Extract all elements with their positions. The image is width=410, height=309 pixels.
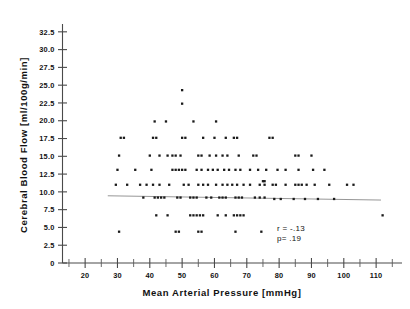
data-point — [163, 196, 165, 198]
data-point — [210, 196, 212, 198]
data-point — [166, 214, 168, 216]
chart-canvas: Cerebral Blood Flow [ml/100g/min] Mean A… — [0, 0, 410, 309]
data-point — [196, 214, 198, 216]
data-point — [275, 184, 277, 186]
data-point — [215, 120, 217, 122]
data-point — [217, 169, 219, 171]
data-point — [123, 137, 125, 139]
data-point — [184, 137, 186, 139]
data-point — [381, 214, 383, 216]
data-point — [158, 154, 160, 156]
data-point — [207, 184, 209, 186]
data-point — [273, 198, 275, 200]
x-tick-label: 20 — [81, 271, 90, 280]
data-point — [225, 137, 227, 139]
data-point — [189, 196, 191, 198]
data-point — [259, 196, 261, 198]
data-point — [297, 154, 299, 156]
y-tick-label: 17.5 — [39, 134, 54, 143]
x-tick-label: 110 — [370, 271, 383, 280]
data-points-group — [115, 89, 384, 233]
data-point — [192, 120, 194, 122]
y-axis-title-group: Cerebral Blood Flow [ml/100g/min] — [18, 57, 29, 233]
data-point — [178, 169, 180, 171]
data-point — [272, 184, 274, 186]
data-point — [301, 184, 303, 186]
data-point — [263, 180, 265, 182]
data-point — [181, 169, 183, 171]
data-point — [145, 184, 147, 186]
data-point — [118, 231, 120, 233]
data-point — [181, 103, 183, 105]
data-point — [187, 184, 189, 186]
y-tick-label: 0 — [50, 259, 54, 268]
scatter-plot-figure: Cerebral Blood Flow [ml/100g/min] Mean A… — [0, 0, 410, 309]
data-point — [200, 231, 202, 233]
y-tick-label: 7.5 — [44, 205, 55, 214]
data-point — [126, 184, 128, 186]
data-point — [260, 231, 262, 233]
data-point — [241, 196, 243, 198]
data-point — [134, 169, 136, 171]
data-point — [238, 154, 240, 156]
data-point — [310, 154, 312, 156]
x-tick-label: 80 — [275, 271, 284, 280]
data-point — [154, 196, 156, 198]
data-point — [158, 184, 160, 186]
y-tick-label: 10.0 — [39, 188, 54, 197]
data-point — [152, 137, 154, 139]
data-point — [217, 214, 219, 216]
data-point — [238, 196, 240, 198]
data-point — [184, 169, 186, 171]
data-point — [192, 214, 194, 216]
data-point — [197, 184, 199, 186]
data-point — [181, 137, 183, 139]
data-point — [328, 184, 330, 186]
data-point — [297, 169, 299, 171]
data-point — [120, 137, 122, 139]
x-tick-label: 100 — [337, 271, 350, 280]
data-point — [189, 214, 191, 216]
data-point — [171, 154, 173, 156]
data-point — [175, 154, 177, 156]
data-point — [323, 169, 325, 171]
data-point — [149, 154, 151, 156]
data-point — [236, 214, 238, 216]
data-point — [333, 198, 335, 200]
data-point — [276, 169, 278, 171]
data-point — [215, 154, 217, 156]
data-point — [284, 169, 286, 171]
x-tick-label: 40 — [145, 271, 154, 280]
data-point — [115, 184, 117, 186]
data-point — [263, 184, 265, 186]
y-axis-title: Cerebral Blood Flow [ml/100g/min] — [18, 57, 29, 233]
data-point — [255, 154, 257, 156]
data-point — [234, 196, 236, 198]
regression-line — [108, 196, 381, 200]
data-point — [294, 184, 296, 186]
data-point — [312, 169, 314, 171]
data-point — [175, 231, 177, 233]
data-point — [168, 184, 170, 186]
data-point — [118, 154, 120, 156]
data-point — [160, 196, 162, 198]
data-point — [265, 169, 267, 171]
data-point — [192, 196, 194, 198]
x-axis-title: Mean Arterial Pressure [mmHg] — [142, 287, 301, 298]
x-tick-label: 30 — [113, 271, 122, 280]
data-point — [215, 184, 217, 186]
data-point — [175, 169, 177, 171]
y-tick-label: 30.0 — [39, 45, 54, 54]
y-tick-label: 12.5 — [39, 170, 54, 179]
correlation-annotation: r = -.13 — [277, 224, 305, 233]
data-point — [157, 196, 159, 198]
data-point — [205, 196, 207, 198]
data-point — [142, 196, 144, 198]
data-point — [293, 198, 295, 200]
data-point — [257, 169, 259, 171]
data-point — [242, 184, 244, 186]
data-point — [196, 196, 198, 198]
data-point — [294, 154, 296, 156]
y-tick-label: 25.0 — [39, 81, 54, 90]
data-point — [259, 184, 261, 186]
